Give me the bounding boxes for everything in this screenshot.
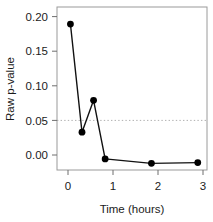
x-axis-ticks bbox=[68, 170, 203, 175]
data-point-2 bbox=[90, 97, 97, 104]
y-tick-label-3: 0.15 bbox=[26, 45, 48, 57]
plot-area-background bbox=[57, 7, 207, 170]
y-tick-label-4: 0.20 bbox=[26, 11, 48, 23]
y-tick-label-1: 0.05 bbox=[26, 115, 48, 127]
data-point-3 bbox=[102, 155, 109, 162]
y-axis-ticks bbox=[52, 17, 57, 155]
x-axis-title: Time (hours) bbox=[100, 203, 165, 215]
x-tick-label-0: 0 bbox=[65, 180, 71, 192]
y-tick-label-0: 0.00 bbox=[26, 149, 48, 161]
data-point-1 bbox=[79, 129, 86, 136]
y-axis-title: Raw p-value bbox=[4, 57, 16, 121]
data-point-4 bbox=[148, 160, 155, 167]
data-point-0 bbox=[67, 21, 74, 28]
raw-pvalue-line-chart: 0.00 0.05 0.10 0.15 0.20 0 1 2 3 Time (h… bbox=[0, 0, 213, 222]
chart-container: 0.00 0.05 0.10 0.15 0.20 0 1 2 3 Time (h… bbox=[0, 0, 213, 222]
x-tick-label-2: 2 bbox=[155, 180, 161, 192]
data-point-5 bbox=[194, 159, 201, 166]
y-tick-label-2: 0.10 bbox=[26, 80, 48, 92]
x-tick-label-3: 3 bbox=[200, 180, 206, 192]
x-tick-label-1: 1 bbox=[110, 180, 116, 192]
